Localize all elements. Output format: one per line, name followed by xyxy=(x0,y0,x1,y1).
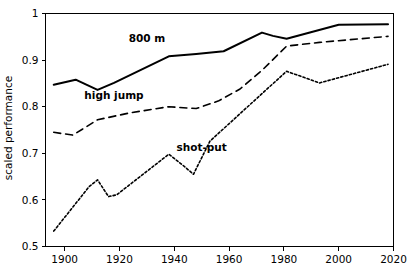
plot-frame xyxy=(46,14,394,247)
axis-ticks xyxy=(42,14,394,251)
y-axis-tick-label: 0.9 xyxy=(22,54,39,66)
y-axis-title: scaled performance xyxy=(2,76,14,180)
series-line-800-m xyxy=(54,24,388,90)
series-label-high-jump: high jump xyxy=(84,89,144,101)
y-axis-tick-label: 1 xyxy=(32,7,39,19)
series-labels: 800 mhigh jumpshot-put xyxy=(84,32,226,152)
x-axis-tick-label: 1940 xyxy=(161,253,188,265)
line-chart: 0.50.60.70.80.91190019201940196019802000… xyxy=(0,0,414,277)
x-axis-tick-label: 1920 xyxy=(106,253,133,265)
axis-tick-labels: 0.50.60.70.80.91190019201940196019802000… xyxy=(22,7,407,264)
x-axis-tick-label: 1960 xyxy=(216,253,243,265)
y-axis-tick-label: 0.6 xyxy=(22,194,39,206)
x-axis-tick-label: 2020 xyxy=(380,253,407,265)
y-axis-tick-label: 0.8 xyxy=(22,100,39,112)
y-axis-tick-label: 0.7 xyxy=(22,147,39,159)
series-label-800-m: 800 m xyxy=(129,32,166,44)
series-lines xyxy=(54,24,388,231)
chart-container: 0.50.60.70.80.91190019201940196019802000… xyxy=(0,0,414,277)
series-label-shot-put: shot-put xyxy=(177,141,227,153)
plot-border xyxy=(46,14,394,247)
y-axis-tick-label: 0.5 xyxy=(22,240,39,252)
x-axis-tick-label: 1900 xyxy=(51,253,78,265)
x-axis-tick-label: 1980 xyxy=(271,253,298,265)
x-axis-tick-label: 2000 xyxy=(325,253,352,265)
